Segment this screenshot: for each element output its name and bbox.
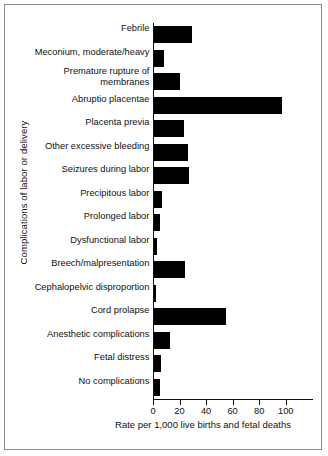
bar-category-label: Cord prolapse: [0, 305, 149, 316]
x-axis-tick-label: 0: [150, 406, 155, 416]
bar-series: FebrileMeconium, moderate/heavyPremature…: [154, 23, 300, 399]
bar-category-label: Precipitous labor: [0, 188, 149, 199]
bar-category-label: Cephalopelvic disproportion: [0, 282, 149, 293]
x-axis-tick: [259, 400, 260, 405]
bar-category-label: Anesthetic complications: [0, 329, 149, 340]
bar-category-label: Placenta previa: [0, 117, 149, 128]
bar-row: Fetal distress: [154, 352, 300, 376]
bar: [154, 50, 164, 67]
bar-row: Cord prolapse: [154, 305, 300, 329]
bar-row: Dysfunctional labor: [154, 235, 300, 259]
bar-row: Anesthetic complications: [154, 329, 300, 353]
bar-category-label: Abruptio placentae: [0, 94, 149, 105]
bar: [154, 144, 187, 161]
bar-row: Seizures during labor: [154, 164, 300, 188]
bar: [154, 332, 169, 349]
bar: [154, 238, 157, 255]
bar-row: Meconium, moderate/heavy: [154, 47, 300, 71]
bar-category-label: Premature rupture of membranes: [0, 66, 149, 87]
bar: [154, 167, 189, 184]
bar-category-label: Meconium, moderate/heavy: [0, 47, 149, 58]
x-axis-tick: [233, 400, 234, 405]
chart-figure-frame: Complications of labor or delivery Febri…: [4, 4, 322, 450]
x-axis-tick: [180, 400, 181, 405]
bar: [154, 191, 162, 208]
bar-row: No complications: [154, 376, 300, 400]
x-axis-title: Rate per 1,000 live births and fetal dea…: [87, 419, 319, 430]
bar-row: Premature rupture of membranes: [154, 70, 300, 94]
x-axis-tick: [153, 400, 154, 405]
bar: [154, 97, 281, 114]
bar-row: Precipitous labor: [154, 188, 300, 212]
bar-category-label: Dysfunctional labor: [0, 235, 149, 246]
bar-row: Placenta previa: [154, 117, 300, 141]
bar: [154, 285, 155, 302]
x-axis-tick-label: 80: [254, 406, 264, 416]
bar-category-label: Seizures during labor: [0, 164, 149, 175]
bar-category-label: Breech/malpresentation: [0, 258, 149, 269]
x-axis-tick: [206, 400, 207, 405]
bar: [154, 355, 161, 372]
x-axis-tick-label: 40: [201, 406, 211, 416]
bar-row: Cephalopelvic disproportion: [154, 282, 300, 306]
bar-category-label: No complications: [0, 376, 149, 387]
bar-row: Prolonged labor: [154, 211, 300, 235]
bar-category-label: Fetal distress: [0, 352, 149, 363]
plot-area: FebrileMeconium, moderate/heavyPremature…: [153, 23, 301, 399]
x-axis-tick-label: 100: [278, 406, 294, 416]
x-axis-tick: [286, 400, 287, 405]
bar: [154, 214, 160, 231]
x-axis-tick-label: 20: [174, 406, 184, 416]
bar-category-label: Febrile: [0, 23, 149, 34]
bar: [154, 261, 185, 278]
bar-category-label: Other excessive bleeding: [0, 141, 149, 152]
bar: [154, 73, 179, 90]
bar: [154, 308, 226, 325]
bar-row: Breech/malpresentation: [154, 258, 300, 282]
bar: [154, 379, 159, 396]
x-axis-tick-label: 60: [227, 406, 237, 416]
bar-row: Abruptio placentae: [154, 94, 300, 118]
bar-row: Other excessive bleeding: [154, 141, 300, 165]
bar: [154, 120, 184, 137]
bar: [154, 26, 191, 43]
bar-category-label: Prolonged labor: [0, 211, 149, 222]
bar-row: Febrile: [154, 23, 300, 47]
